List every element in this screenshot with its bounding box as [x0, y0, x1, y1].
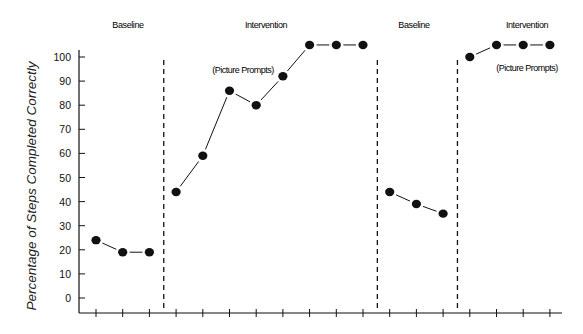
series-segment [396, 195, 410, 201]
y-tick-label: 80 [59, 99, 71, 111]
series-segment [261, 81, 278, 100]
data-point [91, 236, 100, 244]
series-segment [287, 50, 305, 71]
data-point [145, 248, 154, 256]
phase-label-intervention-1: Intervention [245, 20, 288, 30]
data-point [305, 41, 314, 49]
annotation-picture-prompts-2: (Picture Prompts) [496, 63, 558, 73]
y-tick-label: 40 [59, 196, 71, 208]
data-point [412, 200, 421, 208]
y-tick-label: 90 [59, 75, 71, 87]
series-segment [180, 161, 198, 186]
data-point [358, 41, 367, 49]
data-point [545, 41, 554, 49]
series-segment [236, 94, 250, 102]
axes: 0102030405060708090100 [53, 50, 562, 317]
data-series [91, 41, 554, 257]
data-point [172, 188, 181, 196]
series-segment [423, 206, 437, 211]
data-point [519, 41, 528, 49]
single-subject-line-chart: Percentage of Steps Completed Correctly … [0, 0, 583, 334]
series-segment [205, 97, 226, 149]
data-point [332, 41, 341, 49]
phase-series-4 [465, 41, 554, 61]
series-segment [102, 243, 116, 249]
y-tick-label: 0 [65, 292, 71, 304]
data-point [225, 87, 234, 95]
y-tick-label: 10 [59, 268, 71, 280]
y-tick-label: 50 [59, 172, 71, 184]
data-point [118, 248, 127, 256]
phase-change-lines [164, 60, 458, 311]
annotation-picture-prompts-1: (Picture Prompts) [212, 65, 274, 75]
y-tick-label: 60 [59, 147, 71, 159]
data-point [465, 53, 474, 61]
phase-series-3 [385, 188, 448, 218]
y-tick-label: 30 [59, 220, 71, 232]
data-point [492, 41, 501, 49]
phase-label-baseline-2: Baseline [398, 20, 430, 30]
y-axis-title: Percentage of Steps Completed Correctly [24, 60, 39, 310]
data-point [439, 209, 448, 217]
y-tick-label: 100 [53, 51, 71, 63]
phase-label-baseline-1: Baseline [112, 20, 144, 30]
data-point [385, 188, 394, 196]
data-point [198, 152, 207, 160]
data-point [278, 72, 287, 80]
phase-series-1 [91, 236, 154, 256]
series-segment [476, 48, 490, 54]
y-tick-label: 20 [59, 244, 71, 256]
phase-label-intervention-2: Intervention [506, 20, 549, 30]
y-tick-label: 70 [59, 123, 71, 135]
data-point [252, 101, 261, 109]
